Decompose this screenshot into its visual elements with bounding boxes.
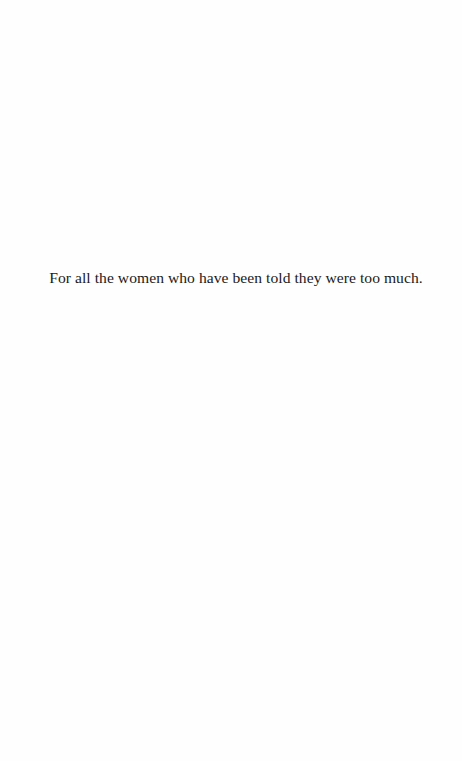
book-page: For all the women who have been told the…	[0, 0, 462, 761]
dedication-text: For all the women who have been told the…	[0, 269, 462, 287]
